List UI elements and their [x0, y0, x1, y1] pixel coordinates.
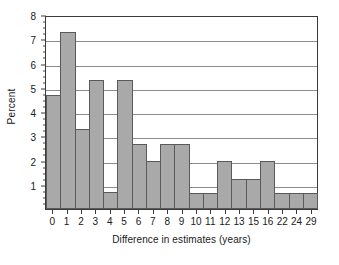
- x-tick-mark-24: [296, 210, 297, 214]
- x-tick-label-10: 10: [189, 215, 203, 229]
- bar-8: [160, 144, 175, 209]
- histogram-chart: Percent 12345678 01234567891011121315162…: [0, 0, 339, 265]
- y-tick-label-6: 6: [30, 59, 36, 70]
- y-tick-label-8: 8: [30, 11, 36, 22]
- bar-12: [217, 161, 232, 210]
- x-tick-label-16: 16: [261, 215, 275, 229]
- x-tick-label-13: 13: [232, 215, 246, 229]
- y-axis-tick-labels: 12345678: [22, 16, 40, 210]
- bar-6: [132, 144, 147, 209]
- bar-2: [75, 129, 90, 209]
- x-tick-label-0: 0: [45, 215, 59, 229]
- bar-3: [89, 80, 104, 209]
- bar-29: [303, 193, 318, 209]
- x-tick-mark-10: [196, 210, 197, 214]
- x-tick-label-5: 5: [117, 215, 131, 229]
- bar-4: [103, 192, 118, 209]
- x-axis-title: Difference in estimates (years): [45, 234, 318, 245]
- y-tick-label-1: 1: [30, 180, 36, 191]
- x-tick-label-29: 29: [304, 215, 318, 229]
- y-tick-label-2: 2: [30, 156, 36, 167]
- x-tick-label-15: 15: [246, 215, 260, 229]
- x-tick-label-2: 2: [74, 215, 88, 229]
- bar-5: [117, 80, 132, 209]
- bar-11: [203, 193, 218, 209]
- x-tick-mark-6: [138, 210, 139, 214]
- y-tick-label-3: 3: [30, 132, 36, 143]
- x-tick-label-4: 4: [103, 215, 117, 229]
- x-tick-mark-29: [311, 210, 312, 214]
- x-tick-label-8: 8: [160, 215, 174, 229]
- x-axis-tick-labels: 0123456789101112131516222429: [45, 215, 318, 229]
- x-tick-mark-22: [282, 210, 283, 214]
- x-tick-mark-15: [253, 210, 254, 214]
- bar-13: [231, 179, 246, 209]
- y-axis-title: Percent: [2, 0, 22, 212]
- x-tick-mark-9: [182, 210, 183, 214]
- x-tick-mark-5: [124, 210, 125, 214]
- bar-22: [274, 193, 289, 209]
- x-tick-label-1: 1: [59, 215, 73, 229]
- x-tick-label-3: 3: [88, 215, 102, 229]
- x-tick-label-24: 24: [289, 215, 303, 229]
- x-tick-label-22: 22: [275, 215, 289, 229]
- x-tick-label-11: 11: [203, 215, 217, 229]
- x-tick-mark-3: [95, 210, 96, 214]
- x-tick-mark-11: [210, 210, 211, 214]
- bar-9: [174, 144, 189, 209]
- bar-10: [189, 193, 204, 209]
- x-tick-mark-2: [81, 210, 82, 214]
- y-tick-label-7: 7: [30, 35, 36, 46]
- bar-0: [46, 95, 61, 209]
- x-tick-label-6: 6: [131, 215, 145, 229]
- x-tick-mark-8: [167, 210, 168, 214]
- x-tick-mark-16: [268, 210, 269, 214]
- bar-15: [246, 179, 261, 209]
- x-tick-label-7: 7: [146, 215, 160, 229]
- y-axis-title-text: Percent: [7, 88, 18, 124]
- bar-16: [260, 161, 275, 210]
- plot-area: [45, 16, 318, 210]
- y-tick-label-4: 4: [30, 108, 36, 119]
- bar-series: [46, 17, 317, 209]
- x-tick-label-12: 12: [218, 215, 232, 229]
- y-tick-label-5: 5: [30, 83, 36, 94]
- bar-7: [146, 161, 161, 210]
- x-tick-label-9: 9: [174, 215, 188, 229]
- x-tick-mark-0: [52, 210, 53, 214]
- bar-1: [60, 32, 75, 209]
- x-tick-mark-12: [225, 210, 226, 214]
- x-tick-mark-4: [110, 210, 111, 214]
- x-tick-mark-13: [239, 210, 240, 214]
- x-tick-mark-7: [153, 210, 154, 214]
- bar-24: [289, 193, 304, 209]
- x-tick-mark-1: [67, 210, 68, 214]
